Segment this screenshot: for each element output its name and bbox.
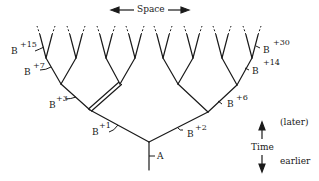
earlier-label: earlier xyxy=(280,157,310,166)
mutation-b1-suffix: +1 xyxy=(99,122,111,130)
arrow-down-icon xyxy=(259,164,265,172)
arrow-right-icon xyxy=(181,7,189,13)
mutation-b14-suffix: +14 xyxy=(263,59,280,67)
mutation-b3-prefix: B xyxy=(49,101,56,110)
space-label: Space xyxy=(137,5,165,14)
mutation-b30-prefix: B xyxy=(263,46,270,55)
mutation-b30-suffix: +30 xyxy=(273,39,290,47)
mutation-b6-suffix: +6 xyxy=(236,94,248,102)
arrow-up-icon xyxy=(259,122,265,130)
mutation-b1-prefix: B xyxy=(92,128,99,137)
mutation-b15-prefix: B xyxy=(11,47,18,56)
arrow-left-icon xyxy=(111,7,119,13)
later-label: (later) xyxy=(280,118,309,127)
mutation-b14-prefix: B xyxy=(252,67,259,76)
leaf-tips xyxy=(37,26,261,35)
branching-spacetime-diagram: Space A B +15 B +7 B +3 B +1 B +2 B +6 B… xyxy=(0,0,319,181)
double-branch-a xyxy=(89,83,119,110)
mutation-b2-prefix: B xyxy=(187,130,194,139)
mutation-b7-suffix: +7 xyxy=(33,62,45,70)
root-label: A xyxy=(157,152,164,161)
mutation-b3-suffix: +3 xyxy=(56,95,68,103)
mutation-b6-prefix: B xyxy=(227,100,234,109)
double-branch-b xyxy=(92,85,122,112)
time-label: Time xyxy=(251,143,274,152)
mutation-b7-prefix: B xyxy=(24,68,31,77)
mutation-b2-suffix: +2 xyxy=(195,124,207,132)
mutation-b15-suffix: +15 xyxy=(20,41,37,49)
